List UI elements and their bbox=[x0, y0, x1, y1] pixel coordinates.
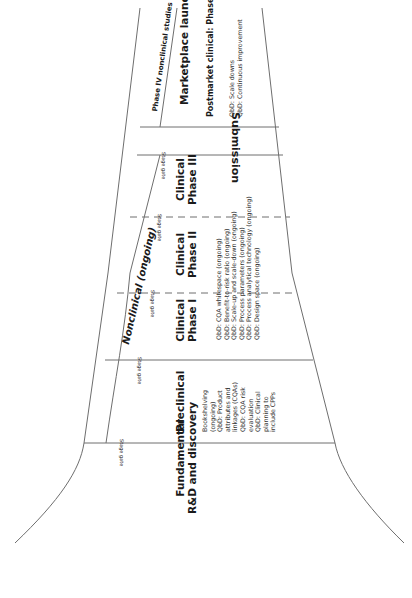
title-line: Phase II bbox=[186, 231, 198, 278]
stage-gate-label: Stage gate bbox=[150, 290, 156, 317]
note-line: QbD: Scale downs bbox=[228, 19, 236, 117]
stage-preclinical-title: Preclinical bbox=[174, 371, 186, 432]
stage-gate-label: Stage gate bbox=[137, 357, 143, 384]
stage-clinical-phase1-title: Clinical Phase I bbox=[174, 299, 198, 342]
note-line: planning to bbox=[262, 382, 270, 432]
note-line: include CPPs bbox=[269, 382, 277, 432]
stage-marketplace-title: Marketplace launch bbox=[178, 0, 190, 105]
title-line: R&D and discovery bbox=[186, 402, 198, 514]
title-line: Clinical bbox=[174, 231, 186, 278]
note-line: evaluation bbox=[247, 382, 255, 432]
note-line: QbD: CQA risk bbox=[239, 382, 247, 432]
note-line: QbD: CQA whitespace (ongoing) bbox=[215, 196, 223, 340]
funnel-right-edge bbox=[262, 8, 404, 543]
preclinical-notes: Bookshelving (ongoing) QbD: Product attr… bbox=[201, 382, 277, 432]
note-line: QbD: Benefit-to-risk ratio (ongoing) bbox=[223, 196, 231, 340]
stage-gate-label: Stage gate bbox=[157, 214, 163, 241]
note-line: Bookshelving bbox=[201, 382, 209, 432]
note-line: QbD: Continuous improvement bbox=[236, 19, 244, 117]
clinical-notes: QbD: CQA whitespace (ongoing) QbD: Benef… bbox=[215, 196, 261, 340]
title-line: Phase III bbox=[186, 154, 198, 205]
note-line: QbD: Product bbox=[216, 382, 224, 432]
stage-gate-label: Stage gate bbox=[161, 152, 167, 179]
stage-gate-label: Stage gate bbox=[119, 439, 125, 466]
note-line: QbD: Scale-up and scale-down (ongoing) bbox=[230, 196, 238, 340]
stage-clinical-phase2-title: Clinical Phase II bbox=[174, 231, 198, 278]
postmarket-subtitle: Postmarket clinical: Phase IV bbox=[206, 0, 215, 117]
title-line: Phase I bbox=[186, 299, 198, 342]
note-line: attributes and bbox=[224, 382, 232, 432]
note-line: QbD: Design space (ongoing) bbox=[253, 196, 261, 340]
note-line: QbD: Process parameters (ongoing) bbox=[238, 196, 246, 340]
note-line: QbD: Clinical bbox=[254, 382, 262, 432]
note-line: linkages (CQAs) bbox=[231, 382, 239, 432]
title-line: Clinical bbox=[174, 299, 186, 342]
stage-clinical-phase3-title: Clinical Phase III bbox=[174, 154, 198, 205]
stage-submission-title: Submission bbox=[229, 112, 241, 183]
note-line: (ongoing) bbox=[209, 382, 217, 432]
note-line: QbD: Process analytical technology (ongo… bbox=[245, 196, 253, 340]
title-line: Clinical bbox=[174, 154, 186, 205]
marketplace-notes: QbD: Scale downs QbD: Continuous improve… bbox=[228, 19, 243, 117]
